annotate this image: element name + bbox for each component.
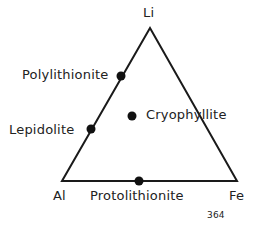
point-cryophyllite bbox=[128, 112, 137, 121]
point-protolithionite bbox=[135, 177, 144, 186]
label-lepidolite: Lepidolite bbox=[9, 122, 74, 137]
point-polylithionite bbox=[117, 72, 126, 81]
label-cryophyllite: Cryophyllite bbox=[146, 107, 227, 122]
point-lepidolite bbox=[87, 125, 96, 134]
triangle-outline bbox=[62, 28, 237, 181]
vertex-label-fe: Fe bbox=[229, 188, 244, 203]
figure-number: 364 bbox=[207, 210, 225, 220]
vertex-label-li: Li bbox=[143, 5, 154, 20]
label-protolithionite: Protolithionite bbox=[90, 188, 184, 203]
label-polylithionite: Polylithionite bbox=[22, 67, 109, 82]
vertex-label-al: Al bbox=[53, 188, 66, 203]
